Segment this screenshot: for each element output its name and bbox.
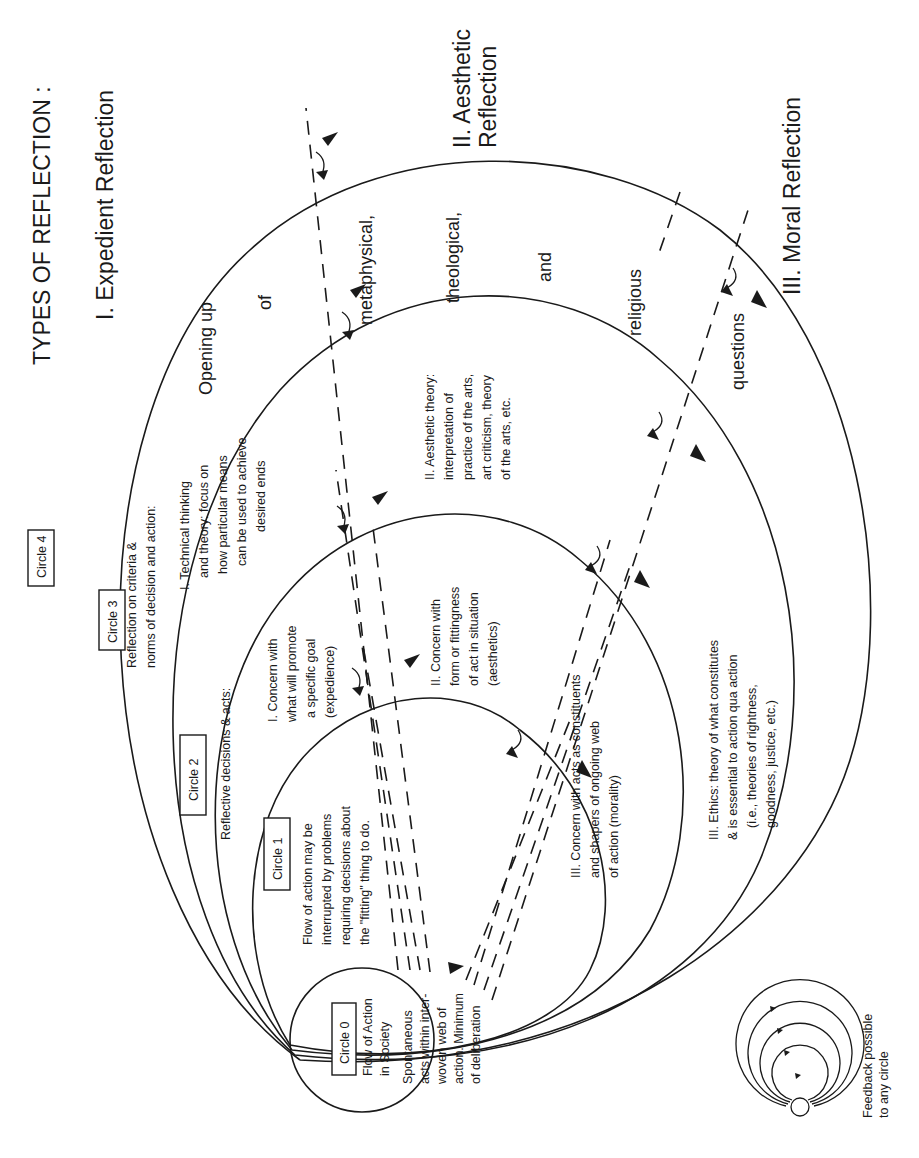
svg-text:can be used to achieve: can be used to achieve bbox=[235, 437, 249, 566]
circle-4-right-arrow-icon bbox=[751, 290, 767, 308]
svg-text:and shapers of ongoing web: and shapers of ongoing web bbox=[588, 721, 602, 878]
svg-text:woven web of: woven web of bbox=[435, 1007, 449, 1085]
circle-3-item-3: III. Ethics: theory of what constitutes … bbox=[707, 640, 778, 840]
svg-text:of act in situation: of act in situation bbox=[467, 592, 481, 686]
svg-text:(i.e., theories of rightness,: (i.e., theories of rightness, bbox=[745, 684, 759, 828]
svg-text:of the arts, etc.: of the arts, etc. bbox=[499, 397, 513, 480]
svg-text:I. Concern with: I. Concern with bbox=[266, 639, 280, 722]
circle-3-item-2: II. Aesthetic theory: interpretation of … bbox=[423, 374, 513, 480]
circle-2-item-3: III. Concern with acts as constituents a… bbox=[569, 674, 621, 878]
circle-0-arrow-icon bbox=[448, 962, 464, 974]
svg-text:and theory: focus on: and theory: focus on bbox=[197, 465, 211, 578]
circle-0-box: Circle 0 bbox=[332, 1003, 356, 1075]
svg-text:III. Ethics: theory of what: III. Ethics: theory of what constitutes bbox=[707, 640, 721, 840]
svg-text:of action (morality): of action (morality) bbox=[607, 775, 621, 878]
circle-1-box: Circle 1 bbox=[264, 818, 290, 890]
circle-3-heading: Reflection on criteria & norms of decisi… bbox=[125, 505, 158, 668]
svg-text:requiring decisions about: requiring decisions about bbox=[339, 805, 353, 945]
aesthetic-reflection-label-2: Reflection bbox=[475, 46, 501, 148]
svg-text:II. Concern with: II. Concern with bbox=[429, 599, 443, 686]
svg-text:I. Technical thinking: I. Technical thinking bbox=[178, 481, 192, 590]
svg-text:form or fittingness: form or fittingness bbox=[448, 587, 462, 686]
circle-2-box: Circle 2 bbox=[180, 735, 206, 815]
svg-text:of deliberation: of deliberation bbox=[469, 1005, 483, 1084]
svg-text:art criticism, theory: art criticism, theory bbox=[480, 374, 494, 480]
svg-text:II. Aesthetic theory:: II. Aesthetic theory: bbox=[423, 374, 437, 480]
circle-3-right-arrow-icon bbox=[690, 444, 706, 462]
aesthetic-reflection-label-1: II. Aesthetic bbox=[449, 29, 475, 148]
circle-1-body: Flow of action may be interrupted by pro… bbox=[301, 805, 372, 945]
circle-1-arrow-icon bbox=[404, 654, 420, 668]
circle-2-label: Circle 2 bbox=[187, 759, 201, 801]
svg-text:Feedback possible: Feedback possible bbox=[861, 1014, 875, 1118]
band-word-and: and bbox=[535, 252, 555, 282]
svg-text:in Society: in Society bbox=[378, 1021, 392, 1076]
svg-text:action. Minimum: action. Minimum bbox=[452, 993, 466, 1084]
svg-text:to any circle: to any circle bbox=[877, 1051, 891, 1118]
circle-4-arrow-icon bbox=[322, 132, 338, 146]
svg-text:Flow of action may be: Flow of action may be bbox=[301, 823, 315, 945]
moral-reflection-label: III. Moral Reflection bbox=[779, 97, 805, 295]
svg-text:a specific goal: a specific goal bbox=[304, 639, 318, 718]
legend-text: Feedback possible to any circle bbox=[861, 1014, 891, 1118]
nested-feedback-circles-icon bbox=[736, 980, 864, 1116]
diagram-title: TYPES OF REFLECTION : bbox=[29, 86, 55, 365]
svg-text:desired ends: desired ends bbox=[254, 460, 268, 532]
circle-0-body: Spontaneous acts within inter- woven web… bbox=[401, 993, 483, 1085]
svg-text:Flow of Action: Flow of Action bbox=[361, 998, 375, 1076]
svg-text:goodness, justice, etc.): goodness, justice, etc.) bbox=[764, 700, 778, 828]
svg-text:acts within inter-: acts within inter- bbox=[418, 994, 432, 1084]
svg-text:how particular means: how particular means bbox=[216, 455, 230, 574]
svg-text:norms of decision and action:: norms of decision and action: bbox=[144, 505, 158, 668]
circle-0-label: Circle 0 bbox=[338, 1022, 352, 1064]
inward-feedback-arrows bbox=[316, 152, 736, 758]
band-word-of: of bbox=[255, 294, 275, 310]
band-word-opening-up: Opening up bbox=[196, 302, 216, 395]
svg-text:practice of the arts,: practice of the arts, bbox=[461, 374, 475, 480]
circle-2-item-1: I. Concern with what will promote a spec… bbox=[266, 625, 337, 723]
circle-4-label: Circle 4 bbox=[35, 536, 49, 578]
svg-text:Spontaneous: Spontaneous bbox=[401, 1010, 415, 1084]
svg-text:Reflection on criteria &: Reflection on criteria & bbox=[125, 542, 139, 668]
circle-4-box: Circle 4 bbox=[28, 530, 54, 586]
svg-text:the "fitting" thing to do.: the "fitting" thing to do. bbox=[358, 820, 372, 945]
svg-text:(expedience): (expedience) bbox=[323, 646, 337, 718]
circle-3-label: Circle 3 bbox=[106, 601, 120, 643]
expedient-reflection-label: I. Expedient Reflection bbox=[92, 90, 118, 320]
circle-2-item-2: II. Concern with form or fittingness of … bbox=[429, 587, 500, 686]
svg-text:what will promote: what will promote bbox=[285, 625, 299, 723]
circle-2-arrow-icon bbox=[372, 491, 388, 505]
circle-2-heading: Reflective decisions & acts: bbox=[219, 688, 233, 840]
svg-text:interrupted by problems: interrupted by problems bbox=[320, 814, 334, 945]
circle-1-label: Circle 1 bbox=[271, 838, 285, 880]
band-word-metaphysical: metaphysical, bbox=[356, 215, 376, 325]
svg-text:(aesthetics): (aesthetics) bbox=[486, 621, 500, 686]
circle-3-item-1: I. Technical thinking and theory: focus … bbox=[178, 437, 268, 590]
band-word-religious: religious bbox=[625, 269, 645, 336]
circle-0-heading: Flow of Action in Society bbox=[361, 998, 392, 1076]
reflection-diagram: TYPES OF REFLECTION : I. Expedient Refle… bbox=[0, 0, 919, 1158]
svg-text:& is essential to action qua a: & is essential to action qua action bbox=[726, 654, 740, 840]
svg-text:interpretation of: interpretation of bbox=[442, 393, 456, 480]
svg-text:III. Concern with acts as con: III. Concern with acts as constituents bbox=[569, 674, 583, 878]
band-word-theological: theological, bbox=[443, 212, 463, 303]
circle-3-box: Circle 3 bbox=[99, 590, 125, 650]
circle-2-right-arrow-icon bbox=[634, 570, 650, 588]
band-word-questions: questions bbox=[728, 313, 748, 390]
